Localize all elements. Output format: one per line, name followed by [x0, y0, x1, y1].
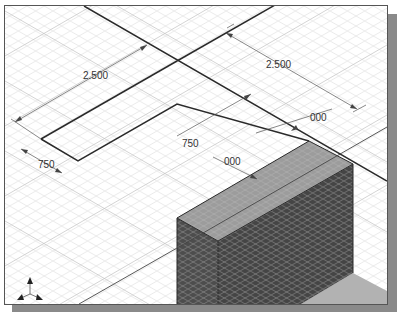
- dim-label-top-right[interactable]: 2.500: [266, 59, 291, 70]
- dim-label-mid-width[interactable]: 750: [182, 138, 199, 149]
- window-shadow-right: [388, 14, 397, 312]
- isometric-drawing[interactable]: 2.500 2.500 750 750 000 000: [5, 6, 387, 304]
- dim-label-left-width[interactable]: 750: [38, 159, 55, 170]
- dim-label-right-offset[interactable]: 000: [310, 112, 327, 123]
- cad-viewport[interactable]: 2.500 2.500 750 750 000 000: [4, 5, 388, 305]
- dim-label-top-left[interactable]: 2.500: [83, 70, 108, 81]
- dim-label-mid-offset[interactable]: 000: [224, 156, 241, 167]
- window-shadow-bottom: [12, 305, 397, 312]
